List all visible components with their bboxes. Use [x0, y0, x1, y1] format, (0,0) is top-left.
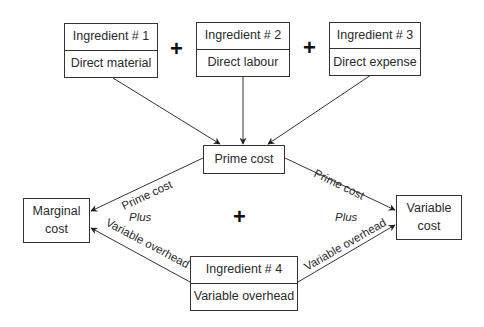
plus-operator-2: +	[303, 37, 316, 59]
arrow-ing1-to-prime	[113, 78, 220, 144]
ingredient-4-title: Ingredient # 4	[191, 257, 297, 284]
variable-cost-line1: Variable	[397, 201, 461, 216]
edge-label-right-prime-cost: Prime cost	[312, 167, 367, 202]
marginal-cost-box: Marginal cost	[23, 198, 90, 243]
ingredient-3-box: Ingredient # 3 Direct expense	[329, 22, 421, 76]
arrow-prime-to-marginal	[91, 158, 203, 211]
ingredient-3-title: Ingredient # 3	[330, 23, 420, 49]
ingredient-2-label: Direct labour	[197, 50, 289, 77]
edge-label-left-variable-overhead: Variable overhead	[104, 216, 191, 270]
ingredient-1-box: Ingredient # 1 Direct material	[64, 23, 158, 78]
arrow-ing4-to-variable	[298, 225, 395, 282]
ingredient-1-label: Direct material	[65, 51, 157, 78]
plus-operator-center: +	[233, 206, 246, 228]
ingredient-1-title: Ingredient # 1	[65, 24, 157, 51]
variable-cost-line2: cost	[397, 219, 461, 234]
edge-label-right-variable-overhead: Variable overhead	[302, 216, 388, 273]
ingredient-4-box: Ingredient # 4 Variable overhead	[190, 256, 298, 311]
variable-cost-box: Variable cost	[396, 195, 462, 240]
marginal-cost-line2: cost	[24, 222, 89, 237]
ingredient-2-title: Ingredient # 2	[197, 23, 289, 50]
edge-label-left-prime-cost: Prime cost	[120, 178, 175, 212]
ingredient-3-label: Direct expense	[330, 49, 420, 75]
prime-cost-label: Prime cost	[204, 146, 284, 173]
prime-cost-box: Prime cost	[203, 145, 285, 174]
marginal-cost-line1: Marginal	[24, 204, 89, 219]
edge-label-left-plus: Plus	[129, 211, 152, 223]
ingredient-2-box: Ingredient # 2 Direct labour	[196, 22, 290, 77]
arrow-ing3-to-prime	[268, 75, 371, 144]
plus-operator-1: +	[170, 38, 183, 60]
edge-label-right-plus: Plus	[335, 211, 358, 223]
ingredient-4-label: Variable overhead	[191, 284, 297, 311]
